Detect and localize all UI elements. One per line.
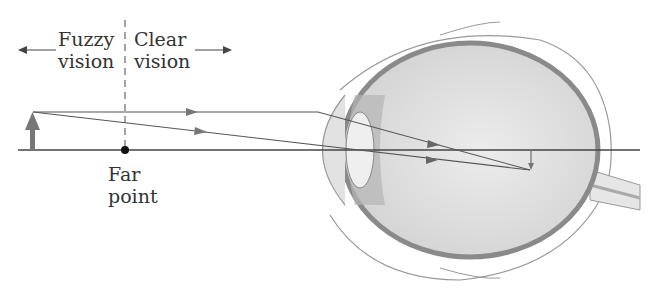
myopia-diagram: Fuzzy vision Clear vision Far point bbox=[0, 0, 657, 295]
object-arrow-icon bbox=[25, 112, 40, 150]
clear-vision-label: Clear vision bbox=[134, 28, 190, 72]
fuzzy-vision-label: Fuzzy vision bbox=[58, 28, 114, 72]
ray-arrow-icon bbox=[194, 127, 207, 135]
far-point-dot bbox=[121, 146, 129, 154]
fuzzy-arrow-icon bbox=[18, 46, 56, 54]
clear-arrow-icon bbox=[195, 46, 232, 54]
far-point-label: Far point bbox=[108, 163, 158, 207]
ray-arrow-icon bbox=[186, 108, 198, 116]
